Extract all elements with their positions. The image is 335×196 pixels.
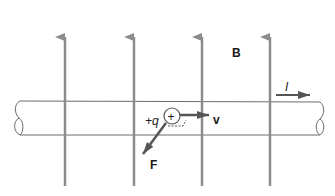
- wire-right-end: [316, 102, 324, 135]
- current-label: I: [285, 80, 289, 94]
- velocity-label: v: [213, 113, 220, 127]
- charge-sign: +: [168, 110, 175, 124]
- wire-left-end: [15, 101, 23, 135]
- charge-label: +q: [145, 114, 159, 128]
- charge: +: [164, 108, 186, 126]
- force-label: F: [150, 158, 157, 172]
- lorentz-force-diagram: B I + +q v F: [0, 0, 335, 196]
- field-label: B: [232, 46, 241, 60]
